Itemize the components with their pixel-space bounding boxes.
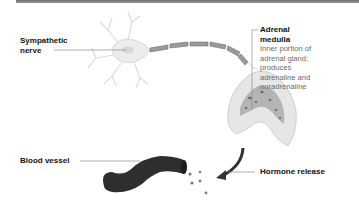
- label-hormone-release: Hormone release: [260, 167, 325, 177]
- hormone-particles: [188, 171, 207, 195]
- adrenal-medulla-description: Inner portion of adrenal gland; produces…: [260, 44, 340, 92]
- blood-vessel: [103, 156, 185, 192]
- adrenal-medulla-illustration: [0, 0, 359, 211]
- axon-myelin: [150, 42, 248, 65]
- label-adrenal-medulla: Adrenal medulla: [260, 25, 290, 44]
- label-blood-vessel: Blood vessel: [20, 156, 69, 166]
- label-sympathetic-nerve: Sympathetic nerve: [20, 36, 68, 55]
